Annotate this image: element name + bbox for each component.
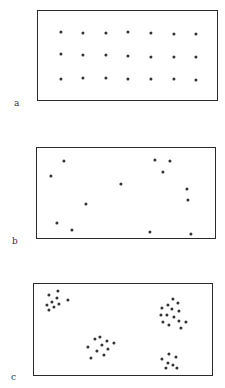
panel-c-label: c	[11, 373, 16, 382]
dispersion-figure: a b c	[0, 0, 225, 388]
panel-c-frame	[33, 283, 213, 376]
panel-a-label: a	[14, 99, 19, 108]
panel-b-label: b	[12, 237, 18, 246]
